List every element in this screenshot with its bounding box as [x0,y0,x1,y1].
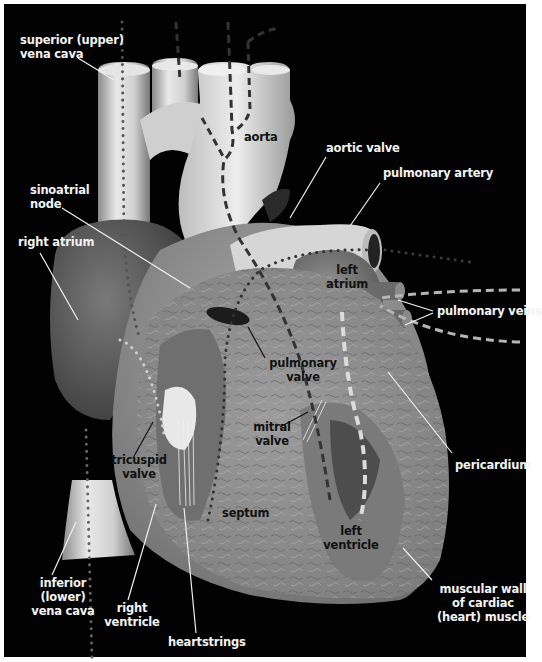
label-line: vena cava [28,604,98,618]
label-line: ventricle [104,615,160,629]
label-line: pulmonary artery [383,166,493,180]
label-line: (heart) muscle [432,610,534,624]
label-line: aortic valve [326,141,400,155]
label-line: left [322,263,372,277]
label-aorta: aorta [244,130,278,144]
label-line: tricuspid [104,453,174,467]
label-line: pulmonary veins [437,304,542,318]
label-line: node [30,197,89,211]
label-line: sinoatrial [30,183,89,197]
label-line: ventricle [318,538,384,552]
label-line: right atrium [18,235,94,249]
label-line: aorta [244,130,278,144]
label-superior-vena-cava: superior (upper) vena cava [20,33,124,61]
label-muscular-wall: muscular wall of cardiac (heart) muscle [432,582,534,624]
label-line: atrium [322,277,372,291]
label-line: mitral [244,420,300,434]
label-septum: septum [222,506,269,520]
label-sinoatrial-node: sinoatrial node [30,183,89,211]
label-line: septum [222,506,269,520]
label-right-ventricle: right ventricle [104,601,160,629]
label-line: valve [265,370,341,384]
label-line: left [318,524,384,538]
label-line: inferior [28,576,98,590]
label-line: pericardium [455,458,531,472]
label-heartstrings: heartstrings [168,635,246,649]
label-line: superior (upper) [20,33,124,47]
label-left-atrium: left atrium [322,263,372,291]
label-line: (lower) [28,590,98,604]
label-tricuspid-valve: tricuspid valve [104,453,174,481]
label-aortic-valve: aortic valve [326,141,400,155]
label-line: pulmonary [265,356,341,370]
label-pulmonary-artery: pulmonary artery [383,166,493,180]
label-line: right [104,601,160,615]
label-mitral-valve: mitral valve [244,420,300,448]
label-line: vena cava [20,47,124,61]
label-left-ventricle: left ventricle [318,524,384,552]
label-line: muscular wall [432,582,534,596]
label-line: valve [244,434,300,448]
label-line: valve [104,467,174,481]
label-inferior-vena-cava: inferior (lower) vena cava [28,576,98,618]
label-right-atrium: right atrium [18,235,94,249]
label-line: of cardiac [432,596,534,610]
label-pulmonary-veins: pulmonary veins [437,304,542,318]
label-line: heartstrings [168,635,246,649]
label-pericardium: pericardium [455,458,531,472]
label-pulmonary-valve: pulmonary valve [265,356,341,384]
